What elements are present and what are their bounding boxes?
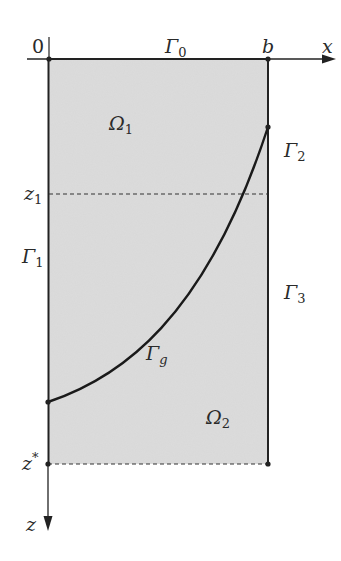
zstar-label: z* [21, 450, 39, 474]
b-label: b [262, 35, 274, 57]
b-point [265, 56, 270, 61]
origin-label: 0 [32, 35, 44, 57]
gamma2-point [265, 124, 270, 129]
z-label: z [25, 513, 37, 535]
gamma1-label: Γ1 [21, 245, 43, 270]
zstar-right-point [265, 461, 270, 466]
domain-grain [49, 59, 268, 464]
gamma0-label: Γ0 [164, 35, 186, 60]
gamma2-label: Γ2 [283, 139, 305, 164]
origin-point [46, 56, 51, 61]
z-axis-arrow-icon [44, 516, 53, 531]
gammag-left-point [45, 399, 50, 404]
domain-diagram: 0 b x z1 z* z Γ0 Γ1 Γ2 Γ3 Γg Ω1 Ω2 [0, 0, 341, 561]
x-label: x [322, 35, 333, 57]
z1-label: z1 [23, 182, 42, 207]
gamma3-label: Γ3 [283, 281, 305, 306]
zstar-left-point [45, 461, 50, 466]
